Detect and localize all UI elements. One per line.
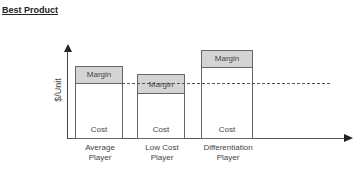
label-line-1: Average <box>75 143 125 153</box>
bar-differentiation-player: Margin Cost <box>201 50 253 139</box>
x-label-low-cost-player: Low Cost Player <box>136 143 188 163</box>
y-axis <box>67 50 68 139</box>
y-axis-arrow-icon <box>64 44 72 52</box>
x-axis-arrow-icon <box>344 134 353 142</box>
y-axis-label: $/Unit <box>53 78 63 102</box>
label-line-2: Player <box>75 153 125 163</box>
chart-title: Best Product <box>2 5 58 15</box>
x-label-differentiation-player: Differentiation Player <box>195 143 261 163</box>
margin-segment: Margin <box>202 51 252 68</box>
label-line-2: Player <box>136 153 188 163</box>
label-line-1: Differentiation <box>195 143 261 153</box>
cost-segment-label: Cost <box>202 125 252 134</box>
x-label-average-player: Average Player <box>75 143 125 163</box>
cost-segment-label: Cost <box>138 125 184 134</box>
label-line-2: Player <box>195 153 261 163</box>
bar-average-player: Margin Cost <box>75 66 123 139</box>
margin-segment: Margin <box>138 75 184 94</box>
reference-dashed-line <box>122 83 330 84</box>
margin-segment: Margin <box>76 67 122 84</box>
cost-segment-label: Cost <box>76 125 122 134</box>
label-line-1: Low Cost <box>136 143 188 153</box>
